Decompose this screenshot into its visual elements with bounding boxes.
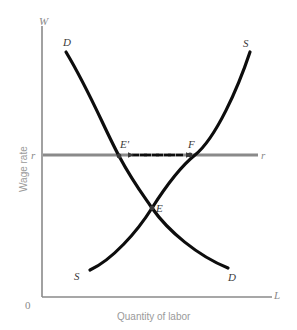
labor-market-diagram: W L 0 r r D D S S E' F E Wage rate Quant… — [0, 0, 297, 330]
wage-line-left-label: r — [31, 150, 35, 161]
point-f-label: F — [188, 139, 195, 150]
point-e-prime-marker — [117, 154, 122, 159]
supply-curve-bottom-label: S — [74, 271, 80, 282]
diagram-canvas — [0, 0, 297, 330]
wage-line-right-label: r — [261, 150, 265, 161]
x-axis-tip-label: L — [274, 290, 280, 301]
point-f-marker — [188, 153, 193, 158]
y-axis-title: Wage rate — [19, 146, 29, 192]
y-axis-tip-label: W — [39, 16, 48, 27]
point-e-prime-label: E' — [120, 139, 129, 150]
x-axis-title: Quantity of labor — [117, 312, 190, 322]
point-e-label: E — [156, 203, 163, 214]
demand-curve — [66, 52, 228, 268]
origin-label: 0 — [25, 300, 31, 311]
supply-curve — [90, 52, 250, 270]
point-e-marker — [150, 206, 155, 211]
demand-curve-top-label: D — [63, 37, 71, 48]
supply-curve-top-label: S — [243, 38, 249, 49]
demand-curve-bottom-label: D — [228, 272, 236, 283]
